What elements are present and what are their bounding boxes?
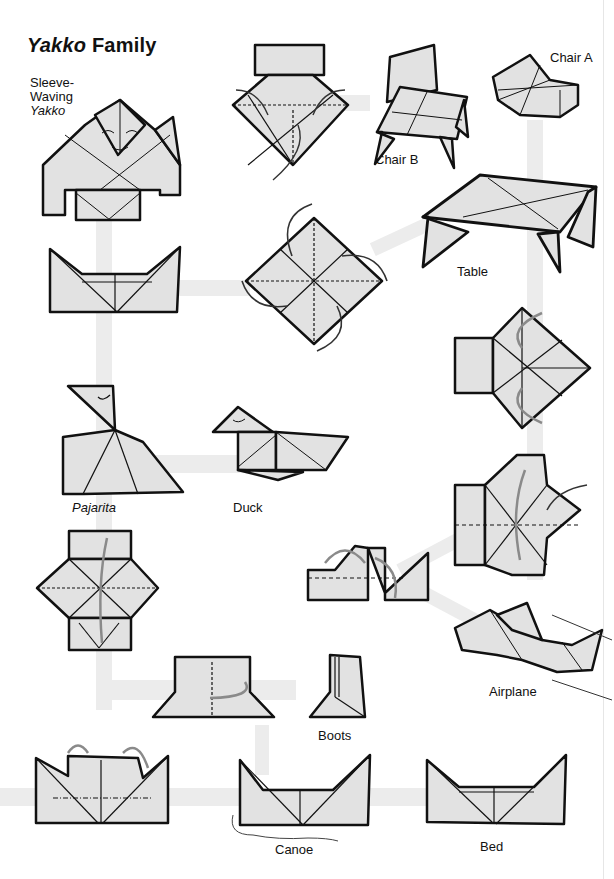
label-boots: Boots [318,729,351,743]
airplane-figure [452,600,612,680]
yakko-step-left-figure [34,528,159,653]
title-italic: Yakko [27,34,86,56]
label-airplane: Airplane [489,685,537,699]
sleeve-waving-yakko-figure [40,95,190,230]
bed-figure [424,752,569,832]
boots-figure [305,652,370,722]
boots-step-figure [150,652,275,720]
square-base-right-figure [452,308,592,438]
canoe-figure [228,755,373,850]
yakko-base-open-figure [228,40,358,170]
page-edge [603,0,604,879]
chair-a-figure [490,45,580,125]
title-rest: Family [86,34,156,56]
duck-figure [208,402,353,482]
pinwheel-base-figure [232,196,402,356]
chair-b-figure [372,42,482,152]
label-duck: Duck [233,501,263,515]
airplane-step-figure [452,450,592,580]
page-title: Yakko Family [27,34,157,57]
chair-step-figure [305,538,435,608]
boat-step-figure [33,748,173,833]
label-pajarita: Pajarita [72,501,116,515]
table-figure [418,172,598,272]
pajarita-figure [58,382,188,497]
label-bed: Bed [480,840,503,854]
label-line: Sleeve- [30,76,74,90]
page: Yakko Family Sleeve- Waving Yakko Chair … [0,0,614,879]
boat-yakko-figure [47,244,182,314]
